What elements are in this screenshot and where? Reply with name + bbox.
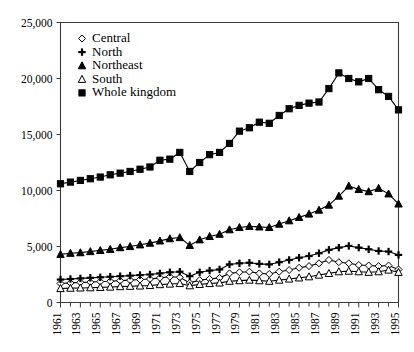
data-point-marker — [156, 270, 163, 277]
data-point-marker — [276, 258, 283, 265]
data-point-marker — [226, 261, 233, 268]
y-axis-tick-label: 20,000 — [21, 73, 53, 86]
data-point-marker — [137, 166, 143, 172]
data-point-marker — [57, 181, 63, 187]
data-point-marker — [385, 190, 392, 197]
data-point-marker — [266, 120, 272, 126]
data-point-marker — [345, 260, 352, 267]
data-point-marker — [336, 70, 342, 76]
data-point-marker — [126, 272, 133, 279]
data-point-marker — [286, 267, 293, 274]
data-point-marker — [295, 254, 302, 261]
data-point-marker — [216, 149, 222, 155]
data-point-marker — [127, 168, 133, 174]
data-point-marker — [315, 250, 322, 257]
data-point-marker — [87, 274, 94, 281]
data-point-marker — [236, 269, 243, 276]
data-point-marker — [346, 75, 352, 81]
data-point-marker — [285, 256, 292, 263]
data-point-marker — [87, 176, 93, 182]
data-point-marker — [305, 210, 312, 217]
x-axis-tick-label: 1979 — [229, 312, 241, 335]
data-point-marker — [286, 106, 292, 112]
x-axis-tick-label: 1969 — [130, 312, 142, 335]
data-point-marker — [176, 268, 183, 275]
line-chart: 05,00010,00015,00020,00025,000 196119631… — [0, 0, 414, 352]
chart-container: 05,00010,00015,00020,00025,000 196119631… — [0, 0, 414, 352]
x-axis-tick-label: 1975 — [190, 312, 202, 335]
data-point-marker — [117, 170, 123, 176]
data-point-marker — [79, 35, 86, 42]
legend-item-whole-kingdom[interactable]: Whole kingdom — [79, 84, 176, 99]
chart-legend: CentralNorthNortheastSouthWhole kingdom — [78, 30, 176, 99]
data-point-marker — [385, 248, 392, 255]
x-axis-tick-label: 1985 — [289, 312, 301, 335]
x-axis-tick-label: 1987 — [309, 312, 321, 335]
data-point-marker — [216, 266, 223, 273]
data-point-marker — [385, 266, 392, 273]
x-axis-tick-label: 1963 — [70, 312, 82, 335]
series-group — [57, 70, 402, 292]
data-point-marker — [345, 242, 352, 249]
data-point-marker — [206, 267, 213, 274]
x-axis-tick-label: 1991 — [349, 312, 361, 335]
y-axis-tick-label: 25,000 — [21, 17, 53, 30]
legend-label: Whole kingdom — [92, 84, 176, 99]
data-point-marker — [345, 182, 352, 189]
data-point-marker — [395, 251, 402, 258]
data-point-marker — [107, 172, 113, 178]
data-point-marker — [385, 93, 391, 99]
data-point-marker — [316, 99, 322, 105]
data-point-marker — [216, 230, 223, 237]
data-point-marker — [276, 268, 283, 275]
x-axis-tick-label: 1981 — [249, 312, 261, 335]
y-axis-tick-label: 5,000 — [27, 241, 53, 254]
data-point-marker — [226, 140, 232, 146]
data-point-marker — [186, 241, 193, 248]
y-axis-tick-label: 15,000 — [21, 129, 53, 142]
data-point-marker — [187, 168, 193, 174]
data-point-marker — [226, 270, 233, 277]
data-point-marker — [146, 271, 153, 278]
data-point-marker — [246, 125, 252, 131]
data-point-marker — [306, 100, 312, 106]
x-axis-tick-label: 1961 — [51, 312, 63, 335]
data-point-marker — [256, 119, 262, 125]
data-point-marker — [78, 62, 85, 69]
data-point-marker — [78, 75, 85, 82]
data-point-marker — [236, 260, 243, 267]
data-point-marker — [207, 152, 213, 158]
data-point-marker — [246, 259, 253, 266]
x-axis-tick-label: 1983 — [269, 312, 281, 335]
y-axis-tick-label: 10,000 — [21, 185, 53, 198]
data-point-marker — [266, 261, 273, 268]
data-point-marker — [395, 107, 401, 113]
data-point-marker — [335, 259, 342, 266]
data-point-marker — [107, 273, 114, 280]
data-point-marker — [296, 102, 302, 108]
x-axis-tick-label: 1971 — [150, 312, 162, 335]
data-point-marker — [315, 206, 322, 213]
data-point-marker — [157, 157, 163, 163]
data-point-marker — [325, 256, 332, 263]
x-axis-tick-label: 1989 — [329, 312, 341, 335]
data-point-marker — [166, 269, 173, 276]
data-point-marker — [196, 269, 203, 276]
data-point-marker — [276, 112, 282, 118]
data-point-marker — [236, 128, 242, 134]
x-axis-tick-label: 1977 — [210, 312, 222, 335]
data-point-marker — [305, 252, 312, 259]
data-point-marker — [176, 234, 183, 241]
data-point-marker — [79, 90, 85, 96]
data-point-marker — [296, 264, 303, 271]
data-point-marker — [186, 272, 193, 279]
y-axis-tick-labels: 05,00010,00015,00020,00025,000 — [21, 17, 53, 309]
data-point-marker — [325, 246, 332, 253]
x-axis-tick-label: 1995 — [389, 312, 401, 335]
data-point-marker — [376, 87, 382, 93]
data-point-marker — [366, 75, 372, 81]
y-axis-tick-label: 0 — [47, 297, 53, 309]
data-point-marker — [197, 159, 203, 165]
data-point-marker — [136, 271, 143, 278]
x-axis-tick-label: 1993 — [369, 312, 381, 335]
